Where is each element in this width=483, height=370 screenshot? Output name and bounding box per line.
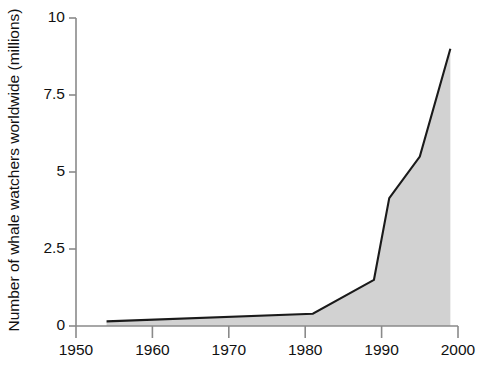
y-tick-label: 10 <box>48 8 65 26</box>
y-axis-ticks <box>69 18 76 326</box>
area-series-group <box>107 49 451 326</box>
y-tick-label: 0 <box>56 316 65 334</box>
y-tick-label: 7.5 <box>43 85 65 103</box>
y-tick-label: 5 <box>56 162 65 180</box>
x-tick-label: 1980 <box>275 341 335 359</box>
area-fill-whale-watchers <box>107 49 451 326</box>
y-tick-label: 2.5 <box>43 239 65 257</box>
chart-container: Number of whale watchers worldwide (mill… <box>0 0 483 370</box>
x-tick-label: 1950 <box>46 341 106 359</box>
x-axis-ticks <box>76 326 458 338</box>
x-tick-label: 1970 <box>199 341 259 359</box>
plot-area <box>0 0 483 370</box>
x-tick-label: 1990 <box>352 341 412 359</box>
x-tick-label: 1960 <box>122 341 182 359</box>
x-tick-label: 2000 <box>428 341 483 359</box>
